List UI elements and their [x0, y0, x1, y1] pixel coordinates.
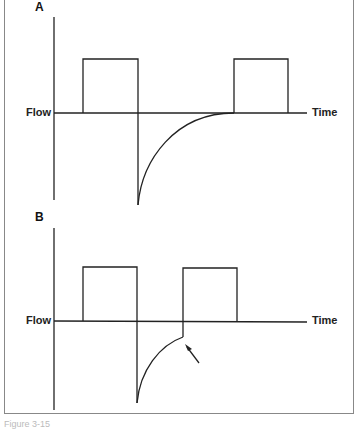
- panel-b-expiratory-curve: [137, 337, 183, 403]
- panel-a-pulse-1: [83, 59, 138, 205]
- panel-b-baseline: [54, 321, 307, 322]
- panel-b-pulse-2: [183, 268, 237, 337]
- panel-b-pulse-1: [83, 267, 137, 403]
- flow-time-waveforms: [0, 0, 356, 433]
- arrow-head-icon: [185, 344, 192, 351]
- panel-a-expiratory-curve: [138, 113, 234, 205]
- panel-a-pulse-2: [234, 59, 288, 113]
- figure-caption: Figure 3-15: [4, 419, 50, 429]
